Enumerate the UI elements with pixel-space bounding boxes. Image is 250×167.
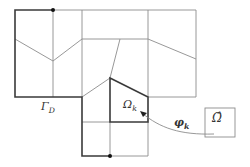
phi-symbol: φ — [174, 116, 184, 129]
mesh-edge — [82, 78, 110, 97]
mesh-edge — [15, 39, 82, 61]
reference-element-label: Ω̂ — [212, 112, 222, 124]
mesh-edge — [148, 39, 196, 59]
mesh-edge — [110, 39, 120, 78]
omega-subscript: k — [132, 104, 137, 113]
boundary-point-icon — [108, 154, 112, 158]
mesh-diagram — [0, 0, 250, 167]
element-label: Ωk — [123, 99, 137, 113]
omega-hat-symbol: Ω̂ — [212, 111, 222, 125]
gamma-subscript: D — [49, 106, 55, 115]
phi-subscript: k — [184, 122, 189, 131]
mesh-edges — [15, 10, 196, 156]
boundary-edge — [15, 10, 110, 156]
mapping-label: φk — [174, 117, 189, 131]
dirichlet-boundary — [15, 10, 110, 156]
omega-symbol: Ω — [123, 98, 132, 111]
boundary-point-icon — [51, 8, 55, 12]
dirichlet-boundary-label: ΓD — [41, 101, 55, 115]
gamma-symbol: Γ — [41, 100, 49, 113]
